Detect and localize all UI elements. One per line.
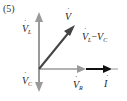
vl-arrowhead-icon bbox=[35, 12, 43, 22]
label-vr: ˙VR bbox=[73, 80, 83, 91]
vr-arrowhead-icon bbox=[77, 65, 86, 73]
label-vl-minus-vc: ˙VL−VC bbox=[82, 32, 107, 43]
label-i: ˙I bbox=[104, 79, 107, 89]
phasor-diagram bbox=[0, 0, 127, 101]
v-arrowhead-icon bbox=[64, 25, 75, 36]
v-phasor bbox=[39, 31, 70, 69]
label-vl: ˙VL bbox=[22, 24, 31, 35]
i-arrowhead-icon bbox=[103, 65, 112, 73]
vc-arrowhead-icon bbox=[35, 82, 43, 92]
label-v: ˙V bbox=[65, 12, 71, 22]
label-vc: ˙VC bbox=[22, 76, 32, 87]
